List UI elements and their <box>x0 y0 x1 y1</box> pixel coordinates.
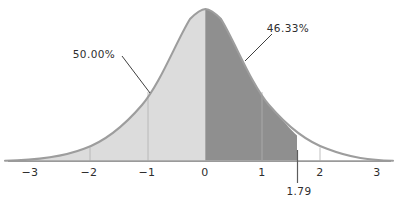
tick-label-3: 3 <box>373 166 380 179</box>
normal-distribution-chart: −3 −2 −1 0 1 2 3 1.79 50.00% 46.33% <box>0 0 399 203</box>
tick-label-neg3: −3 <box>21 166 38 179</box>
left-area-callout-label: 50.00% <box>73 48 115 60</box>
tick-label-0: 0 <box>201 166 208 179</box>
z-marker-label: 1.79 <box>287 185 312 197</box>
tick-label-neg2: −2 <box>80 166 97 179</box>
right-callout-leader-line <box>245 34 272 61</box>
tick-label-neg1: −1 <box>138 166 155 179</box>
left-callout-leader-line <box>122 56 150 93</box>
chart-canvas <box>0 0 399 203</box>
tick-label-2: 2 <box>316 166 323 179</box>
right-area-callout-label: 46.33% <box>267 22 309 34</box>
tick-label-1: 1 <box>258 166 265 179</box>
